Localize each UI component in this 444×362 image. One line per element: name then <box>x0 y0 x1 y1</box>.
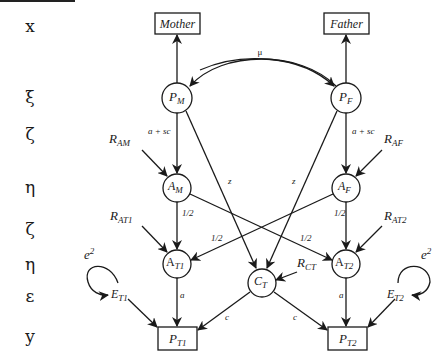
pt2-label: PT2 <box>338 331 357 348</box>
rat1-label: RAT1 <box>109 208 133 225</box>
path-label-ct-pt2: c <box>293 312 297 322</box>
path-label-af-at2: 1/2 <box>334 208 346 218</box>
et2-label: ET2 <box>386 287 404 303</box>
path-label-af-at1: 1/2 <box>211 233 223 243</box>
arrow-rct-ct <box>276 272 297 280</box>
path-label-am-at2: 1/2 <box>300 233 312 243</box>
arrow-ct-pt1 <box>198 292 250 330</box>
at1-label: AT1 <box>166 255 184 271</box>
arrow-et1-pt1 <box>128 299 157 327</box>
path-label-pm-ct: z <box>227 176 232 186</box>
arrow-ct-pt2 <box>274 292 327 330</box>
ct-label: CT <box>254 274 268 290</box>
path-diagram: Mother Father PT1 PT2 PM PF AM AF AT1 AT… <box>0 0 444 362</box>
arrow-raf-af <box>356 150 382 176</box>
path-label-at1-pt1: a <box>180 290 185 300</box>
e2-label-right: e2 <box>421 246 432 262</box>
arrow-pf-ct <box>267 111 337 268</box>
arrow-mu-pf <box>200 59 334 86</box>
af-label: AF <box>337 179 351 195</box>
raf-label: RAF <box>383 131 403 148</box>
pt1-label: PT1 <box>168 331 186 348</box>
am-label: AM <box>167 179 183 195</box>
arrow-rat2-at2 <box>356 226 382 252</box>
at2-label: AT2 <box>335 255 354 271</box>
arrow-pm-ct <box>186 111 256 268</box>
et1-label: ET1 <box>110 287 128 303</box>
path-label-af: a + sc <box>352 126 375 136</box>
path-label-at2-pt2: a <box>339 290 344 300</box>
arrow-ram-am <box>142 150 167 176</box>
arrow-et2-pt2 <box>368 299 395 327</box>
path-label-am-at1: 1/2 <box>182 208 194 218</box>
pf-label: PF <box>338 89 353 106</box>
e2-label-left: e2 <box>84 246 95 262</box>
path-label-am: a + sc <box>148 126 171 136</box>
path-label-ct-pt1: c <box>225 312 229 322</box>
pm-label: PM <box>168 89 185 106</box>
path-label-pf-ct: z <box>291 176 296 186</box>
rat2-label: RAT2 <box>383 208 407 225</box>
arrow-rat1-at1 <box>142 226 167 252</box>
ram-label: RAM <box>108 131 130 148</box>
mu-label: μ <box>258 47 263 57</box>
rct-label: RCT <box>296 255 317 272</box>
variance-loop-et2 <box>398 266 430 295</box>
father-label: Father <box>329 17 363 31</box>
mother-label: Mother <box>159 17 196 31</box>
